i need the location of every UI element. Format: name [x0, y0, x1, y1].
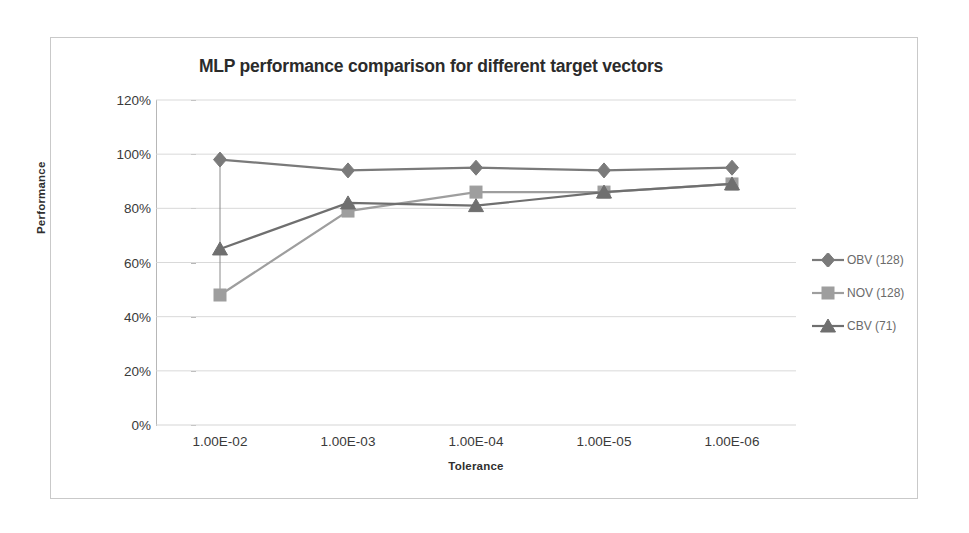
- data-point-marker: [822, 287, 834, 299]
- chart-title: MLP performance comparison for different…: [51, 56, 811, 77]
- data-point-marker: [213, 242, 228, 255]
- y-axis-tick-label: 80%: [99, 201, 151, 216]
- y-axis-tick-label: 100%: [99, 147, 151, 162]
- x-axis-tick-label: 1.00E-03: [288, 434, 408, 449]
- data-point-marker: [598, 163, 611, 178]
- chart-legend: OBV (128)NOV (128)CBV (71): [811, 243, 916, 342]
- legend-label: OBV (128): [845, 253, 904, 267]
- series-diamond: [214, 152, 739, 178]
- legend-label: NOV (128): [845, 286, 904, 300]
- x-axis-tick-label: 1.00E-02: [160, 434, 280, 449]
- data-point-marker: [726, 160, 739, 175]
- y-axis-title: Performance: [35, 161, 47, 234]
- chart-plot: [156, 100, 796, 425]
- data-point-marker: [470, 186, 482, 198]
- x-axis-tick-label: 1.00E-05: [544, 434, 664, 449]
- legend-marker-square-icon: [811, 286, 845, 300]
- x-axis-tick-labels: 1.00E-021.00E-031.00E-041.00E-051.00E-06: [156, 434, 796, 454]
- legend-label: CBV (71): [845, 319, 896, 333]
- y-axis-tick-label: 20%: [99, 363, 151, 378]
- data-point-marker: [470, 160, 483, 175]
- legend-item[interactable]: NOV (128): [811, 276, 916, 309]
- legend-marker-diamond-icon: [811, 253, 845, 267]
- y-axis-tick-label: 0%: [99, 418, 151, 433]
- chart-page-frame: MLP performance comparison for different…: [50, 37, 918, 499]
- legend-item[interactable]: CBV (71): [811, 309, 916, 342]
- series-square: [214, 178, 738, 301]
- data-point-marker: [822, 253, 835, 267]
- legend-marker-triangle-icon: [811, 319, 845, 333]
- y-axis-tick-label: 60%: [99, 255, 151, 270]
- x-axis-tick-label: 1.00E-06: [672, 434, 792, 449]
- x-axis-title: Tolerance: [156, 460, 796, 472]
- data-point-marker: [214, 289, 226, 301]
- legend-item[interactable]: OBV (128): [811, 243, 916, 276]
- y-axis-tick-label: 40%: [99, 309, 151, 324]
- plot-area: [156, 100, 796, 425]
- data-point-marker: [342, 163, 355, 178]
- y-axis-tick-labels: 0%20%40%60%80%100%120%: [91, 100, 151, 425]
- x-axis-tick-label: 1.00E-04: [416, 434, 536, 449]
- y-axis-tick-label: 120%: [99, 93, 151, 108]
